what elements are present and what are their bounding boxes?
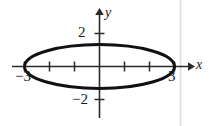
y-axis-label: y [105,6,111,20]
y-axis-tick-label-2: 2 [78,25,86,40]
x-axis-arrowhead [188,62,195,71]
x-axis-label: x [196,58,202,72]
x-axis-tick-label-3: 3 [168,69,176,84]
y-axis-tick-label-neg2: −2 [72,92,88,107]
graph-figure: 2 −2 −3 3 y x [0,0,211,126]
x-axis-tick-label-neg3: −3 [15,69,31,84]
y-axis [95,8,105,118]
y-axis-arrowhead [95,8,104,15]
